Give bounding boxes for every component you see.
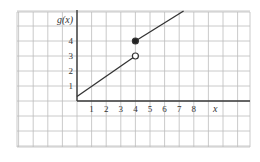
- x-tick-label: 3: [119, 104, 124, 114]
- y-tick-label: 3: [69, 51, 74, 61]
- y-tick-label: 1: [69, 81, 74, 91]
- x-tick-label: 6: [162, 104, 167, 114]
- x-tick-label: 8: [192, 104, 197, 114]
- data-series: [77, 11, 184, 97]
- y-tick-label: 4: [69, 36, 74, 46]
- y-axis-label: g(x): [57, 14, 74, 26]
- piecewise-function-graph: 123456781234 g(x) x: [0, 0, 260, 162]
- open-point-marker: [132, 53, 138, 59]
- x-tick-label: 5: [148, 104, 153, 114]
- x-tick-label: 7: [177, 104, 182, 114]
- tick-labels: 123456781234: [69, 36, 197, 114]
- x-tick-label: 2: [104, 104, 109, 114]
- grid: [17, 11, 250, 147]
- x-tick-label: 1: [89, 104, 94, 114]
- y-tick-label: 2: [69, 66, 74, 76]
- x-tick-label: 4: [133, 104, 138, 114]
- closed-point-marker: [132, 38, 138, 44]
- x-axis-label: x: [212, 103, 218, 114]
